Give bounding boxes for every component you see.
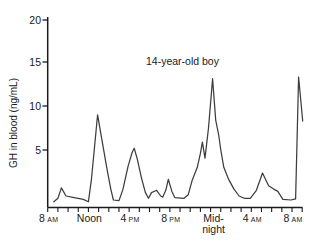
x-tick-label-text: Noon — [77, 212, 102, 224]
y-tick-label-10: 10 — [19, 100, 41, 113]
gh-secretion-figure: GH in blood (ng/mL) 20 15 10 5 14-year-o… — [0, 0, 322, 249]
y-tick-label-20: 20 — [19, 14, 41, 27]
axes — [48, 17, 303, 208]
x-tick-label-line2: night — [202, 223, 225, 235]
y-tick-label-15: 15 — [19, 56, 41, 69]
x-tick-label: Mid-night — [192, 213, 236, 235]
x-tick-label-suffix: AM — [249, 216, 262, 223]
x-tick-label: 4 AM — [230, 213, 274, 225]
chart-annotation: 14-year-old boy — [146, 55, 219, 67]
x-tick-label: 4 PM — [108, 213, 152, 225]
x-tick-label: Noon — [67, 213, 111, 224]
x-tick-label-suffix: AM — [45, 216, 58, 223]
x-tick-label: 8 AM — [271, 213, 315, 225]
y-axis-title: GH in blood (ng/mL) — [7, 57, 21, 189]
x-tick-label-suffix: AM — [289, 216, 302, 223]
axis-ticks — [43, 20, 303, 212]
x-tick-label-suffix: PM — [126, 216, 139, 223]
y-tick-label-5: 5 — [19, 144, 41, 157]
gh-data-line — [54, 77, 303, 202]
x-tick-label: 8 AM — [27, 213, 71, 225]
x-tick-label: 8 PM — [149, 213, 193, 225]
x-tick-label-suffix: PM — [167, 216, 180, 223]
